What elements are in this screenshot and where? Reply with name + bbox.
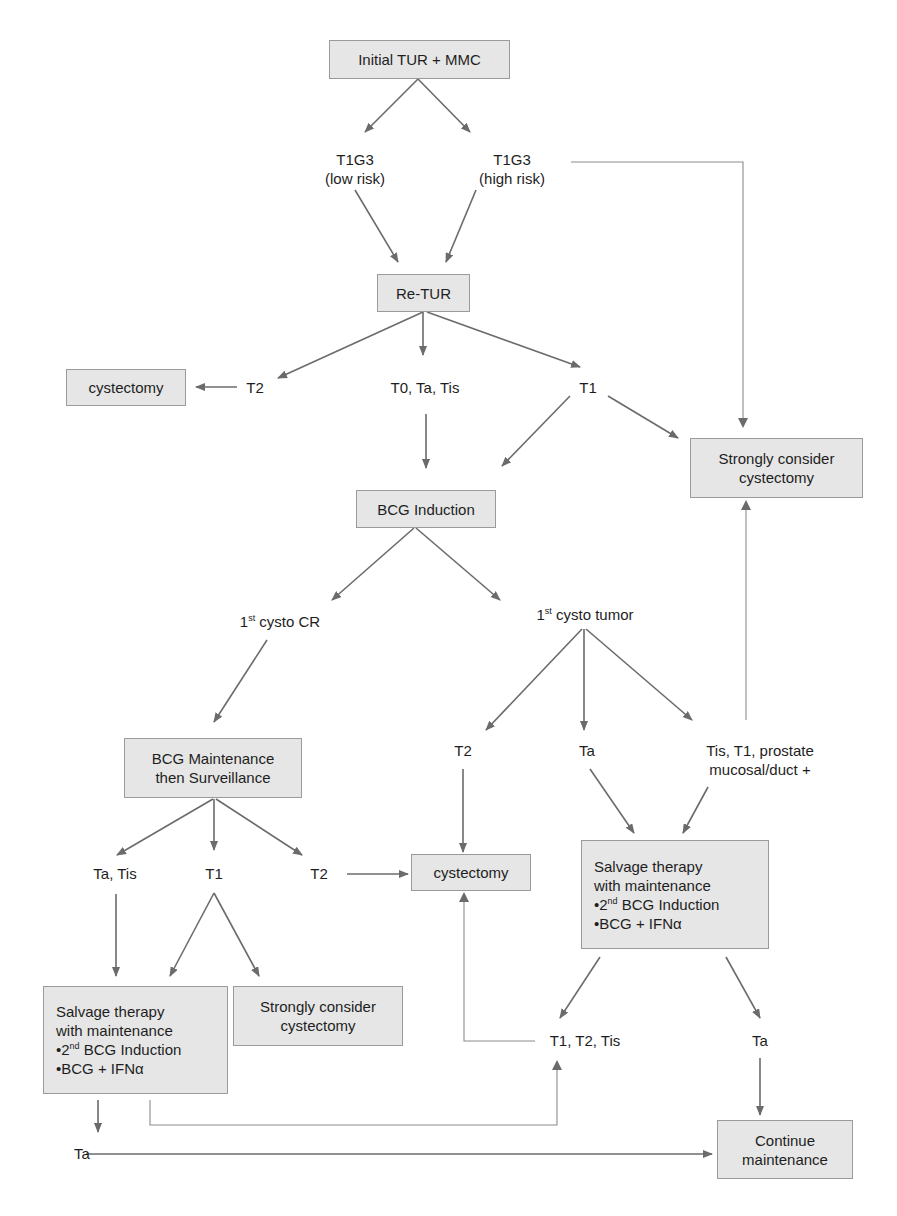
arrowhead-strongly-top-from-below (741, 500, 751, 510)
node-retur-t0-ta-tis: T0, Ta, Tis (370, 378, 480, 397)
node-sublabel: (high risk) (452, 169, 572, 188)
ordinal-number: 1 (240, 613, 248, 630)
bullet-2nd-bcg-induction: •2nd BCG Induction (56, 1040, 181, 1059)
arrow-bcg-to-tumor (416, 528, 500, 600)
node-bcg-maintenance-surveillance: BCG Maintenance then Surveillance (124, 738, 302, 798)
bullet-2nd-bcg-induction: •2nd BCG Induction (594, 895, 719, 914)
node-cystectomy-mid: cystectomy (411, 854, 531, 891)
node-sublabel: maintenance (742, 1150, 828, 1169)
node-maint-t2: T2 (304, 864, 334, 883)
node-label: cysto tumor (552, 606, 634, 623)
node-sublabel: then Surveillance (155, 768, 270, 787)
node-left-ta: Ta (67, 1144, 97, 1163)
arrow-tumor-to-tis (586, 629, 692, 720)
arrow-bcg-to-cr (332, 528, 414, 600)
node-tumor-t2: T2 (448, 741, 478, 760)
node-label: T1 (573, 378, 603, 397)
arrowhead-cystectomy-from-below (459, 892, 469, 902)
node-label: T1G3 (300, 150, 410, 169)
node-label: T1G3 (452, 150, 572, 169)
node-label: Strongly consider (260, 997, 376, 1016)
arrow-retur-to-t1 (427, 312, 580, 367)
bullet-bcg-ifn-alpha: •BCG + IFNα (594, 914, 682, 933)
node-salvage-therapy-left: Salvage therapy with maintenance •2nd BC… (43, 986, 228, 1094)
connector-t1t2tis-to-cystectomy (464, 902, 535, 1041)
node-sublabel: cystectomy (739, 468, 814, 487)
node-label: Ta (572, 741, 602, 760)
arrowhead-strongly-top-from-above (738, 418, 748, 428)
node-label: Tis, T1, prostate (685, 741, 835, 760)
bullet-bcg-ifn-alpha: •BCG + IFNα (56, 1059, 144, 1078)
node-tumor-ta: Ta (572, 741, 602, 760)
node-label: cysto CR (255, 613, 320, 630)
node-label: BCG Induction (377, 500, 475, 519)
node-continue-maintenance: Continue maintenance (717, 1120, 853, 1179)
arrowhead-t1t2tis-from-below (552, 1060, 562, 1070)
node-label: Ta (67, 1144, 97, 1163)
node-maint-ta-tis: Ta, Tis (75, 864, 155, 883)
arrow-tumor-to-t2 (486, 629, 582, 730)
node-label: Strongly consider (719, 449, 835, 468)
node-first-cysto-cr: 1st cysto CR (220, 612, 340, 631)
node-label: Initial TUR + MMC (358, 50, 481, 69)
arrow-retur-to-t2 (278, 312, 423, 378)
arrow-t1-to-salvageleft (170, 893, 214, 976)
arrow-tumorta-to-salvage (590, 769, 634, 833)
node-t1g3-high-risk: T1G3 (high risk) (452, 150, 572, 188)
node-cystectomy-top: cystectomy (66, 369, 186, 406)
node-sublabel: mucosal/duct + (685, 760, 835, 779)
arrow-t1-to-strongly (608, 396, 678, 438)
node-label: T0, Ta, Tis (370, 378, 480, 397)
ordinal-suffix: st (545, 606, 552, 616)
node-initial-tur-mmc: Initial TUR + MMC (329, 40, 510, 79)
arrow-t1-to-bcg (502, 396, 570, 466)
arrow-maint-to-t2 (216, 799, 302, 855)
arrow-initial-to-lowrisk (365, 79, 418, 132)
node-salvage-therapy-right: Salvage therapy with maintenance •2nd BC… (581, 840, 769, 949)
node-t1g3-low-risk: T1G3 (low risk) (300, 150, 410, 188)
arrow-maint-to-tatis (117, 799, 213, 855)
node-label: T2 (304, 864, 334, 883)
node-label: Salvage therapy (56, 1002, 164, 1021)
arrow-t1-to-stronglybottom (214, 893, 259, 976)
node-retur-t1: T1 (573, 378, 603, 397)
arrow-cr-to-maintenance (214, 640, 267, 722)
node-salvage-ta: Ta (745, 1031, 775, 1050)
flowchart-canvas: Initial TUR + MMC T1G3 (low risk) T1G3 (… (0, 0, 897, 1216)
node-label: T2 (448, 741, 478, 760)
node-label: Continue (755, 1131, 815, 1150)
arrow-initial-to-highrisk (418, 79, 470, 132)
node-first-cysto-tumor: 1st cysto tumor (520, 605, 650, 624)
node-label: Ta, Tis (75, 864, 155, 883)
node-label: T2 (240, 378, 270, 397)
node-salvage-t1-t2-tis: T1, T2, Tis (535, 1031, 635, 1050)
node-retur-t2: T2 (240, 378, 270, 397)
node-label: T1 (199, 864, 229, 883)
node-re-tur: Re-TUR (377, 274, 470, 312)
arrow-lowrisk-to-retur (355, 190, 398, 262)
node-sublabel: (low risk) (300, 169, 410, 188)
node-label: Ta (745, 1031, 775, 1050)
node-strongly-consider-cystectomy-bottom: Strongly consider cystectomy (233, 986, 403, 1046)
node-maint-t1: T1 (199, 864, 229, 883)
arrow-salvage-to-t1t2tis (560, 957, 600, 1018)
ordinal-number: 1 (536, 606, 544, 623)
node-label: T1, T2, Tis (535, 1031, 635, 1050)
node-label: cystectomy (433, 863, 508, 882)
arrow-highrisk-to-retur (446, 190, 476, 262)
node-label: Re-TUR (396, 284, 451, 303)
node-label: BCG Maintenance (152, 749, 275, 768)
node-sublabel: with maintenance (594, 876, 711, 895)
node-sublabel: cystectomy (280, 1016, 355, 1035)
node-strongly-consider-cystectomy-top: Strongly consider cystectomy (690, 438, 863, 498)
node-label: Salvage therapy (594, 857, 702, 876)
node-sublabel: with maintenance (56, 1021, 173, 1040)
node-tumor-tis-t1-prostate: Tis, T1, prostate mucosal/duct + (685, 741, 835, 779)
node-label: cystectomy (88, 378, 163, 397)
arrow-salvage-to-ta (726, 957, 760, 1018)
node-bcg-induction: BCG Induction (356, 490, 496, 528)
arrow-tis-to-salvage (683, 787, 708, 833)
